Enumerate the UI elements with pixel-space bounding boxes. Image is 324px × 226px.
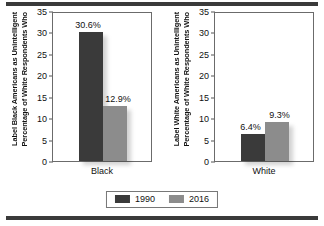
legend: 1990 2016 — [106, 191, 218, 208]
bar-white-1990[interactable]: 6.4% — [241, 134, 265, 161]
panel-black: Percentage of White Respondents Who Labe… — [0, 12, 162, 178]
y-tick-label-25: 25 — [199, 50, 209, 59]
y-axis-title-black: Percentage of White Respondents Who Labe… — [0, 12, 30, 162]
plot-area-black: 30.6% 12.9% — [52, 12, 152, 162]
bottom-rule — [6, 216, 318, 220]
x-axis-label-black: Black — [52, 166, 152, 176]
bar-fill — [103, 106, 127, 161]
y-tick-label-30: 30 — [199, 29, 209, 38]
y-axis-tick-labels-black: 35 30 25 20 15 10 5 0 — [30, 12, 48, 162]
y-tick-label-35: 35 — [199, 8, 209, 17]
bar-black-1990[interactable]: 30.6% — [79, 32, 103, 161]
bar-value-label: 30.6% — [75, 20, 101, 30]
legend-label-2016: 2016 — [189, 194, 209, 204]
bar-fill — [241, 134, 265, 161]
panel-container: Percentage of White Respondents Who Labe… — [0, 12, 324, 178]
y-axis-title-white: Percentage of White Respondents Who Labe… — [162, 12, 192, 162]
y-tick-label-0: 0 — [204, 158, 209, 167]
plot-area-white: 6.4% 9.3% — [214, 12, 314, 162]
y-tick-label-35: 35 — [37, 8, 47, 17]
bar-black-2016[interactable]: 12.9% — [103, 106, 127, 161]
figure: Percentage of White Respondents Who Labe… — [0, 0, 324, 226]
legend-swatch-2016 — [169, 195, 184, 203]
y-axis-title-line-2: Label White Americans as Unintelligent — [172, 12, 182, 146]
legend-label-1990: 1990 — [135, 194, 155, 204]
bar-fill — [79, 32, 103, 161]
y-axis-title-line-2: Label Black Americans as Unintelligent — [10, 12, 20, 146]
x-axis-label-white: White — [214, 166, 314, 176]
panel-white: Percentage of White Respondents Who Labe… — [162, 12, 324, 178]
legend-item-2016[interactable]: 2016 — [169, 194, 209, 204]
bar-value-label: 12.9% — [105, 94, 131, 104]
y-tick-label-15: 15 — [199, 93, 209, 102]
bar-white-2016[interactable]: 9.3% — [265, 122, 289, 161]
bar-value-label: 9.3% — [269, 110, 290, 120]
bar-group-black: 30.6% 12.9% — [53, 13, 151, 161]
y-tick-label-5: 5 — [204, 136, 209, 145]
bar-fill — [265, 122, 289, 161]
legend-swatch-1990 — [115, 195, 130, 203]
y-tick-label-10: 10 — [37, 115, 47, 124]
y-tick-label-0: 0 — [42, 158, 47, 167]
y-axis-title-line-1: Percentage of White Respondents Who — [182, 12, 192, 146]
y-tick-label-20: 20 — [37, 72, 47, 81]
y-tick-label-15: 15 — [37, 93, 47, 102]
y-tick-label-5: 5 — [42, 136, 47, 145]
bar-group-white: 6.4% 9.3% — [215, 13, 313, 161]
legend-item-1990[interactable]: 1990 — [115, 194, 155, 204]
y-tick-label-10: 10 — [199, 115, 209, 124]
y-tick-label-25: 25 — [37, 50, 47, 59]
y-tick-label-20: 20 — [199, 72, 209, 81]
bar-value-label: 6.4% — [240, 122, 261, 132]
y-axis-tick-labels-white: 35 30 25 20 15 10 5 0 — [192, 12, 210, 162]
y-axis-title-line-1: Percentage of White Respondents Who — [20, 12, 30, 146]
top-rule — [6, 2, 318, 6]
y-tick-label-30: 30 — [37, 29, 47, 38]
